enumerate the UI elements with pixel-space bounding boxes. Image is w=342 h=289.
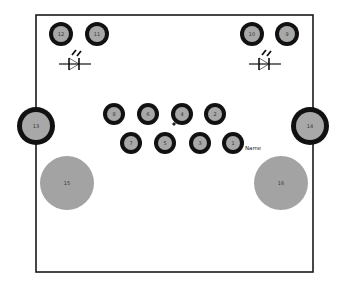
pad-label: 13 [33, 123, 39, 129]
pad-7: 7 [120, 132, 142, 154]
pad-label: 7 [129, 140, 132, 146]
pad-8: 8 [103, 103, 125, 125]
pad-6: 6 [137, 103, 159, 125]
pad-label: 8 [112, 111, 115, 117]
led-diode-icon [249, 50, 281, 70]
pad-12: 12 [49, 22, 73, 46]
pad-3: 3 [189, 132, 211, 154]
mounting-hole-label: 16 [278, 180, 284, 186]
mounting-hole-label: 15 [64, 180, 70, 186]
pad-label: 12 [58, 31, 64, 37]
pads: 1234567891011121314 [17, 22, 329, 154]
pad-label: 11 [94, 31, 100, 37]
pad-label: 10 [249, 31, 255, 37]
pad-13: 13 [17, 107, 55, 145]
pad-label: 6 [146, 111, 149, 117]
pad-label: 3 [198, 140, 201, 146]
pad-label: 9 [285, 31, 288, 37]
mounting-hole-15: 15 [40, 156, 94, 210]
led-diode-icon [59, 50, 91, 70]
pad-label: 5 [163, 140, 166, 146]
pad-label: 1 [231, 140, 234, 146]
component-name-label: Name [245, 145, 262, 151]
pad-10: 10 [240, 22, 264, 46]
pad-4: 4 [171, 103, 193, 125]
pad-5: 5 [154, 132, 176, 154]
pcb-footprint-diagram: 1516 1234567891011121314 Name [0, 0, 342, 289]
led-symbols [59, 50, 281, 70]
mounting-hole-16: 16 [254, 156, 308, 210]
pad-14: 14 [291, 107, 329, 145]
mounting-holes: 1516 [40, 156, 308, 210]
pad-1: 1 [222, 132, 244, 154]
pad-label: 4 [180, 111, 183, 117]
pad-label: 14 [307, 123, 313, 129]
pad-label: 2 [213, 111, 216, 117]
pad-9: 9 [275, 22, 299, 46]
pad-11: 11 [85, 22, 109, 46]
pad-2: 2 [204, 103, 226, 125]
